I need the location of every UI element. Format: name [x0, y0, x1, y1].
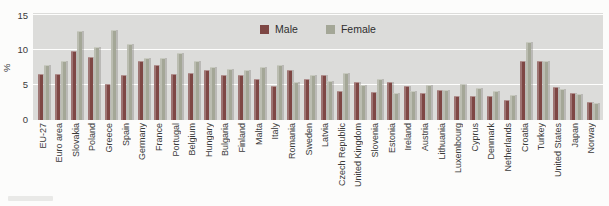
- bar-female-czech-republic: [343, 73, 348, 120]
- x-label-cyprus: Cyprus: [470, 123, 480, 152]
- bar-male-belgium: [188, 73, 193, 120]
- x-label-eu-27: EU-27: [38, 123, 48, 149]
- bar-female-lithuania: [443, 90, 448, 120]
- legend-entry-female: Female: [326, 23, 376, 35]
- x-label-norway: Norway: [586, 123, 596, 154]
- x-label-euro-area: Euro area: [54, 123, 64, 163]
- x-label-cell-united-kingdom: United Kingdom: [354, 123, 365, 193]
- bar-group-united-kingdom: [354, 82, 365, 121]
- x-label-cell-czech-republic: Czech Republic: [337, 123, 348, 193]
- x-label-cell-austria: Austria: [420, 123, 431, 193]
- bar-male-hungary: [204, 70, 209, 120]
- bar-female-poland: [94, 47, 99, 120]
- bar-male-euro-area: [55, 74, 60, 120]
- x-label-united-states: United States: [553, 123, 563, 177]
- bar-female-netherlands: [510, 95, 515, 120]
- bar-group-poland: [88, 47, 99, 120]
- x-label-cell-lithuania: Lithuania: [437, 123, 448, 193]
- bar-female-denmark: [493, 91, 498, 120]
- bar-female-malta: [260, 67, 265, 120]
- bar-female-united-states: [559, 89, 564, 121]
- bar-female-slovenia: [377, 79, 382, 120]
- bar-female-italy: [277, 65, 282, 120]
- bar-group-romania: [287, 70, 298, 120]
- plot-area: Male Female: [33, 13, 603, 120]
- x-label-cell-eu-27: EU-27: [38, 123, 49, 193]
- y-tick-0: 0: [0, 115, 28, 125]
- bar-male-united-kingdom: [354, 82, 359, 121]
- bar-group-japan: [570, 93, 581, 120]
- x-label-france: France: [154, 123, 164, 151]
- x-label-austria: Austria: [420, 123, 430, 151]
- y-tick-15: 15: [0, 11, 28, 21]
- bar-female-austria: [426, 85, 431, 120]
- x-label-czech-republic: Czech Republic: [337, 123, 347, 186]
- x-label-cell-luxembourg: Luxembourg: [454, 123, 465, 193]
- x-label-cell-ireland: Ireland: [404, 123, 415, 193]
- x-label-latvia: Latvia: [320, 123, 330, 147]
- bar-group-finland: [238, 70, 249, 120]
- bar-female-ireland: [410, 91, 415, 120]
- x-label-turkey: Turkey: [536, 123, 546, 150]
- bar-male-italy: [271, 86, 276, 120]
- bar-group-italy: [271, 65, 282, 120]
- bar-male-japan: [570, 93, 575, 120]
- bar-female-turkey: [543, 61, 548, 121]
- bar-female-united-kingdom: [360, 85, 365, 120]
- bar-group-estonia: [387, 82, 398, 120]
- legend-swatch-female-icon: [326, 25, 335, 34]
- bar-female-spain: [127, 44, 132, 120]
- bar-group-spain: [121, 44, 132, 120]
- x-label-denmark: Denmark: [486, 123, 496, 160]
- bar-male-germany: [138, 61, 143, 121]
- x-label-malta: Malta: [254, 123, 264, 145]
- bar-female-belgium: [194, 61, 199, 120]
- bar-male-united-states: [553, 87, 558, 120]
- bar-group-belgium: [188, 61, 199, 120]
- x-label-ireland: Ireland: [403, 123, 413, 151]
- bar-male-netherlands: [504, 100, 509, 120]
- chart-figure: % 0 5 10 15 Male Female EU-27Euro areaSl…: [0, 0, 609, 206]
- x-label-cell-norway: Norway: [587, 123, 598, 193]
- y-tick-5: 5: [0, 80, 28, 90]
- x-axis-labels: EU-27Euro areaSlovakiaPolandGreeceSpainG…: [33, 123, 603, 193]
- x-label-cell-croatia: Croatia: [520, 123, 531, 193]
- bar-male-lithuania: [437, 90, 442, 120]
- x-label-cell-japan: Japan: [570, 123, 581, 193]
- bar-male-greece: [105, 84, 110, 120]
- bar-group-germany: [138, 58, 149, 120]
- bar-male-sweden: [304, 79, 309, 120]
- bar-male-finland: [238, 75, 243, 121]
- legend-label-male: Male: [275, 23, 298, 35]
- x-label-cell-italy: Italy: [271, 123, 282, 193]
- bar-female-luxembourg: [460, 84, 465, 120]
- x-label-slovenia: Slovenia: [370, 123, 380, 158]
- x-label-lithuania: Lithuania: [437, 123, 447, 160]
- x-label-cell-germany: Germany: [138, 123, 149, 193]
- x-label-bulgaria: Bulgaria: [220, 123, 230, 156]
- bar-group-latvia: [321, 75, 332, 120]
- bar-group-hungary: [204, 67, 215, 120]
- bar-female-portugal: [177, 53, 182, 120]
- bar-male-croatia: [520, 61, 525, 120]
- x-label-cell-france: France: [154, 123, 165, 193]
- bar-male-norway: [587, 102, 592, 120]
- x-label-sweden: Sweden: [304, 123, 314, 156]
- x-label-romania: Romania: [287, 123, 297, 159]
- bar-group-portugal: [171, 53, 182, 120]
- x-label-portugal: Portugal: [171, 123, 181, 157]
- bar-male-spain: [121, 75, 126, 120]
- bar-male-bulgaria: [221, 75, 226, 121]
- bar-male-denmark: [487, 96, 492, 121]
- bar-group-sweden: [304, 75, 315, 120]
- bar-male-france: [154, 65, 159, 120]
- bar-male-romania: [287, 70, 292, 120]
- x-label-cell-portugal: Portugal: [171, 123, 182, 193]
- bar-female-romania: [293, 82, 298, 120]
- legend: Male Female: [33, 22, 603, 36]
- x-label-cell-slovenia: Slovenia: [371, 123, 382, 193]
- bar-female-greece: [111, 30, 116, 120]
- x-label-slovakia: Slovakia: [71, 123, 81, 157]
- legend-entry-male: Male: [260, 23, 298, 35]
- bar-male-austria: [420, 93, 425, 120]
